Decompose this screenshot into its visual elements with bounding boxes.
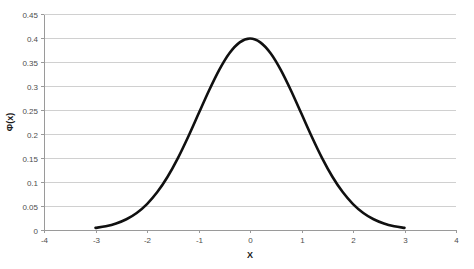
- y-axis-tick-label: 0.45: [22, 11, 38, 20]
- y-axis-tick-label: 0.4: [27, 35, 39, 44]
- x-axis-tick-label: 1: [300, 236, 305, 245]
- normal-distribution-chart: 00.050.10.150.20.250.30.350.40.45 -4-3-2…: [0, 0, 474, 269]
- y-axis-tick-label: 0.25: [22, 107, 38, 116]
- y-axis-tick-label: 0.2: [27, 131, 39, 140]
- x-axis-tick-label: 0: [248, 236, 253, 245]
- y-axis-title: Φ(x): [5, 113, 15, 131]
- y-axis-tick-label: 0.35: [22, 59, 38, 68]
- y-axis-tick-label: 0.1: [27, 179, 39, 188]
- chart-canvas: 00.050.10.150.20.250.30.350.40.45 -4-3-2…: [0, 0, 474, 269]
- y-axis-tick-label: 0.3: [27, 83, 39, 92]
- x-axis-title: X: [247, 250, 253, 260]
- x-axis-tick-label: -4: [41, 236, 49, 245]
- x-axis-tick-label: -2: [144, 236, 152, 245]
- x-axis-tick-label: 2: [351, 236, 356, 245]
- y-axis-tick-label: 0.05: [22, 203, 38, 212]
- x-axis-tick-label: 4: [454, 236, 459, 245]
- x-axis-tick-label: -3: [93, 236, 101, 245]
- y-axis-tick-label: 0.15: [22, 155, 38, 164]
- x-axis-tick-label: -1: [196, 236, 204, 245]
- y-axis-tick-label: 0: [34, 227, 39, 236]
- x-axis-tick-label: 3: [403, 236, 408, 245]
